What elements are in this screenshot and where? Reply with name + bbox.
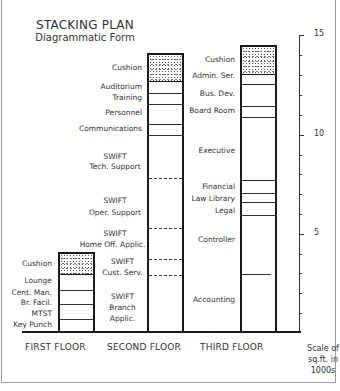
divider [242,193,275,194]
label-swift-home-1: SWIFT [85,229,145,239]
label-personnel: Personnel [105,108,142,118]
second-floor-label: SECOND FLOOR [107,342,181,352]
tick [299,115,302,116]
label-mtst: MTST [32,309,52,319]
divider [60,304,93,305]
tick-label-15: 15 [314,29,324,38]
dashed-divider [149,228,182,229]
dashed-divider [149,259,182,260]
divider [60,319,93,320]
divider [242,117,275,118]
label-communications: Communications [79,124,142,134]
label-key-punch: Key Punch [13,320,52,330]
label-swift-branch-3: Applic. [100,314,145,324]
label-admin-ser: Admin. Ser. [192,71,235,81]
label-cushion-1: Cushion [22,259,52,269]
tick-15 [299,35,304,36]
divider [60,290,93,291]
tick [299,55,302,56]
dashed-divider [149,178,182,179]
divider-partial [242,274,271,275]
cushion-block [60,254,93,275]
third-floor-label: THIRD FLOOR [200,342,263,352]
ground-baseline [22,331,301,333]
label-law-library: Law Library [191,194,235,204]
label-swift-oper-2: Oper. Support [85,208,145,218]
label-executive: Executive [198,146,235,156]
tick [299,155,302,156]
divider [242,84,275,85]
tick-10 [299,135,304,136]
tick [299,293,302,294]
label-lounge: Lounge [24,276,52,286]
label-accounting: Accounting [193,295,235,305]
label-swift-branch-1: SWIFT [100,292,145,302]
label-cushion-3: Cushion [205,55,235,65]
label-swift-tech-2: Tech. Support [85,162,145,172]
label-swift-cust-2: Cust. Serv. [100,268,145,278]
label-legal: Legal [215,206,235,216]
divider [149,135,182,136]
divider [242,180,275,181]
label-board-room: Board Room [189,106,235,116]
divider [149,93,182,94]
tick [299,313,302,314]
label-cent-man: Cent. Man. [11,288,52,298]
first-floor-label: FIRST FLOOR [25,342,86,352]
scale-axis [299,35,300,332]
tick-label-5: 5 [314,228,319,237]
label-swift-home-2: Home Off. Applic. [75,240,150,250]
third-floor-bar [240,45,277,333]
divider [149,104,182,105]
tick [299,214,302,215]
tick [299,254,302,255]
cushion-block [242,47,275,75]
dashed-divider [149,275,182,276]
cushion-block [149,55,182,82]
label-swift-branch-2: Branch [100,303,145,313]
label-swift-tech-1: SWIFT [85,152,145,162]
tick-5 [299,234,304,235]
diagram-subtitle: Diagrammatic Form [0,32,170,43]
divider [149,124,182,125]
scale-label-line-2: sq.ft. in [305,354,340,365]
tick-label-10: 10 [314,129,324,138]
label-controller: Controller [198,235,235,245]
scale-label: Scale of sq.ft. in 1000s [305,343,340,376]
tick [299,95,302,96]
tick [299,174,302,175]
divider [242,202,275,203]
label-bus-dev: Bus. Dev. [200,89,235,99]
label-auditorium: Auditorium [101,82,142,92]
label-training: Training [112,93,142,103]
first-floor-bar [58,252,95,333]
scale-label-line-3: 1000s [305,365,340,376]
label-swift-oper-1: SWIFT [85,196,145,206]
scale-label-line-1: Scale of [305,343,340,354]
second-floor-bar [147,53,184,333]
label-swift-cust-1: SWIFT [100,257,145,267]
divider [242,215,275,216]
tick [299,194,302,195]
divider [242,106,275,107]
tick [299,75,302,76]
label-cushion-2: Cushion [112,63,142,73]
diagram-title: STACKING PLAN [0,18,170,32]
label-financial: Financial [202,182,235,192]
label-br-facil: Br. Facil. [21,298,52,308]
tick [299,273,302,274]
